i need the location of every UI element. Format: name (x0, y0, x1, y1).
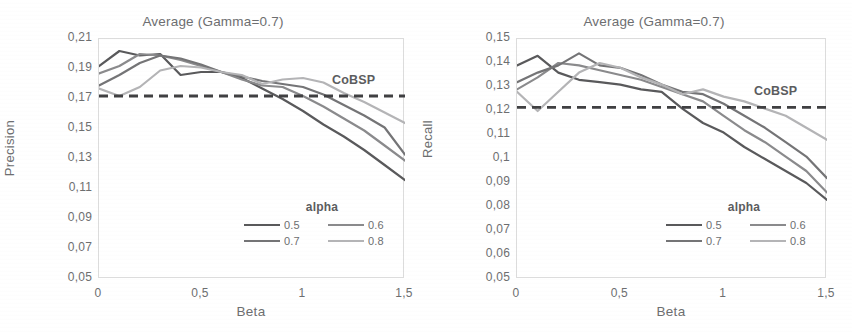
y-tick-label: 0,08 (464, 198, 510, 212)
legend-label: 0.6 (790, 219, 806, 231)
y-tick-label: 0,15 (46, 120, 92, 134)
recall-x-axis-label: Beta (516, 304, 826, 319)
precision-chart-panel: Average (Gamma=0.7) Precision Beta CoBSP… (0, 0, 426, 332)
y-tick-label: 0,13 (464, 78, 510, 92)
x-tick-label: 0 (78, 286, 118, 300)
x-tick-label: 1 (703, 286, 743, 300)
y-tick-label: 0,17 (46, 90, 92, 104)
legend-label: 0.6 (368, 219, 384, 231)
y-tick-label: 0,15 (464, 30, 510, 44)
recall-chart-panel: Average (Gamma=0.7) Recall Beta CoBSP al… (426, 0, 852, 332)
recall-cobsp-label: CoBSP (754, 84, 797, 98)
y-tick-label: 0,13 (46, 150, 92, 164)
y-tick-label: 0,05 (464, 270, 510, 284)
recall-chart-title: Average (Gamma=0.7) (486, 14, 822, 29)
precision-x-axis-label: Beta (98, 304, 404, 319)
x-tick-label: 0,5 (599, 286, 639, 300)
y-tick-label: 0,05 (46, 270, 92, 284)
y-tick-label: 0,21 (46, 30, 92, 44)
legend-entry-alpha-0-8[interactable]: 0.8 (750, 235, 822, 247)
precision-chart-title: Average (Gamma=0.7) (40, 14, 386, 29)
y-tick-label: 0,1 (464, 150, 510, 164)
series-line-0-6 (517, 63, 827, 193)
legend-label: 0.8 (368, 235, 384, 247)
y-tick-label: 0,09 (46, 210, 92, 224)
y-tick-label: 0,14 (464, 54, 510, 68)
y-tick-label: 0,07 (464, 222, 510, 236)
figure-container: Average (Gamma=0.7) Precision Beta CoBSP… (0, 0, 852, 332)
x-tick-label: 0,5 (180, 286, 220, 300)
recall-legend-entries: 0.50.60.70.8 (666, 219, 822, 247)
precision-legend-title: alpha (244, 200, 400, 214)
legend-label: 0.5 (706, 219, 722, 231)
x-tick-label: 1 (282, 286, 322, 300)
legend-label: 0.7 (284, 235, 300, 247)
legend-entry-alpha-0-7[interactable]: 0.7 (666, 235, 738, 247)
y-tick-label: 0,11 (464, 126, 510, 140)
y-tick-label: 0,07 (46, 240, 92, 254)
precision-legend-entries: 0.50.60.70.8 (244, 219, 400, 247)
y-tick-label: 0,06 (464, 246, 510, 260)
legend-label: 0.7 (706, 235, 722, 247)
legend-line-swatch (750, 240, 786, 242)
y-tick-label: 0,09 (464, 174, 510, 188)
x-tick-label: 1,5 (384, 286, 424, 300)
series-line-0-5 (99, 51, 405, 180)
legend-entry-alpha-0-7[interactable]: 0.7 (244, 235, 316, 247)
precision-cobsp-label: CoBSP (332, 73, 375, 87)
recall-y-axis-label: Recall (420, 120, 435, 158)
series-line-0-5 (517, 56, 827, 200)
legend-entry-alpha-0-5[interactable]: 0.5 (244, 219, 316, 231)
y-tick-label: 0,11 (46, 180, 92, 194)
legend-line-swatch (244, 224, 280, 226)
y-tick-label: 0,12 (464, 102, 510, 116)
legend-label: 0.5 (284, 219, 300, 231)
legend-line-swatch (750, 224, 786, 226)
precision-legend: alpha 0.50.60.70.8 (244, 200, 400, 247)
legend-entry-alpha-0-6[interactable]: 0.6 (750, 219, 822, 231)
series-line-0-7 (517, 53, 827, 178)
legend-entry-alpha-0-5[interactable]: 0.5 (666, 219, 738, 231)
legend-line-swatch (666, 224, 702, 226)
legend-label: 0.8 (790, 235, 806, 247)
recall-legend-title: alpha (666, 200, 822, 214)
series-line-0-7 (99, 56, 405, 155)
legend-line-swatch (666, 240, 702, 242)
legend-entry-alpha-0-8[interactable]: 0.8 (328, 235, 400, 247)
recall-legend: alpha 0.50.60.70.8 (666, 200, 822, 247)
precision-y-axis-label: Precision (2, 120, 17, 176)
y-tick-label: 0,19 (46, 60, 92, 74)
legend-line-swatch (244, 240, 280, 242)
series-line-0-6 (99, 54, 405, 161)
x-tick-label: 1,5 (806, 286, 846, 300)
legend-line-swatch (328, 240, 364, 242)
legend-line-swatch (328, 224, 364, 226)
legend-entry-alpha-0-6[interactable]: 0.6 (328, 219, 400, 231)
x-tick-label: 0 (496, 286, 536, 300)
